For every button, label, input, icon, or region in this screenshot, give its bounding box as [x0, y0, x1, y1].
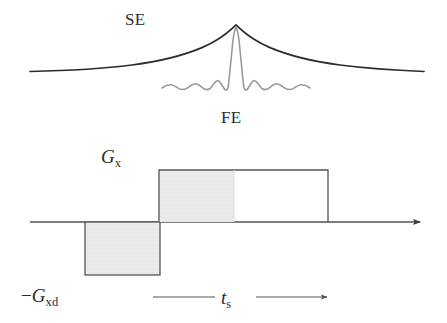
field-echo-label: FE	[221, 109, 242, 126]
gradient-amplitude-subscript: x	[115, 156, 121, 170]
gradient-waveform-panel	[30, 170, 420, 297]
mri-pulse-sequence-figure: SE FE Gx −Gxd ts	[0, 0, 447, 323]
field-echo-sinc-curve	[162, 27, 310, 90]
gradient-amplitude-label: Gx	[101, 147, 121, 169]
echo-signal-panel	[30, 25, 424, 90]
minus-sign: −	[21, 285, 32, 306]
sampling-time-label: ts	[221, 288, 231, 310]
gradient-amplitude-symbol: G	[101, 146, 115, 167]
sampling-time-subscript: s	[226, 297, 231, 311]
spin-echo-label: SE	[125, 11, 146, 28]
negative-gradient-subscript: xd	[45, 295, 58, 309]
negative-dephase-lobe	[85, 222, 160, 275]
negative-gradient-symbol: G	[32, 285, 46, 306]
spin-echo-envelope-curve	[30, 25, 424, 72]
negative-gradient-label: −Gxd	[21, 286, 58, 308]
readout-lobe-shaded-half	[159, 170, 234, 222]
figure-canvas	[0, 0, 447, 323]
